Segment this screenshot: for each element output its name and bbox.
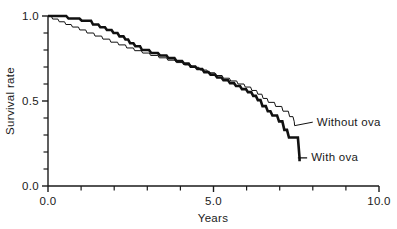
survival-curve-with-ova xyxy=(48,16,300,161)
x-tick-label: 10.0 xyxy=(367,195,391,207)
x-axis-title: Years xyxy=(198,212,229,224)
survival-curve-figure: 0.00.51.0 0.05.010.0 Survival rate Years… xyxy=(0,0,397,229)
series-label-with-ova: With ova xyxy=(311,151,358,163)
survival-curve-without-ova xyxy=(48,16,295,126)
x-tick-label: 5.0 xyxy=(205,195,222,207)
y-tick-label: 0.5 xyxy=(22,95,39,107)
y-axis-title: Survival rate xyxy=(4,67,16,135)
label-leader-line xyxy=(295,122,313,126)
x-tick-label: 0.0 xyxy=(40,195,57,207)
y-tick-label: 1.0 xyxy=(22,10,39,22)
series-label-without-ova: Without ova xyxy=(317,116,381,128)
y-axis-tick-labels: 0.00.51.0 xyxy=(22,10,39,192)
survival-plot-canvas: 0.00.51.0 0.05.010.0 Survival rate Years… xyxy=(0,0,397,229)
series-labels: With ovaWithout ova xyxy=(311,116,381,164)
y-tick-label: 0.0 xyxy=(22,180,39,192)
y-axis-ticks xyxy=(42,16,48,186)
survival-curves xyxy=(48,16,313,161)
x-axis-tick-labels: 0.05.010.0 xyxy=(40,195,391,207)
x-axis-ticks xyxy=(48,186,379,192)
